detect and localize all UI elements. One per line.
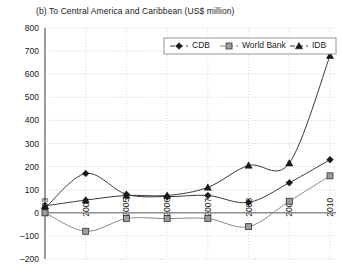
x-tick-label: 2006 (162, 198, 172, 217)
data-point-marker (205, 216, 211, 222)
data-point-marker (204, 184, 211, 190)
data-point-marker (286, 198, 292, 204)
chart-container: (b) To Central America and Caribbean (US… (0, 0, 343, 277)
y-tick-label: –100 (20, 231, 39, 241)
chart-svg: 8007006005004003002001000–100–200 200320… (0, 0, 343, 277)
data-point-marker (246, 224, 252, 230)
data-point-marker (327, 173, 333, 179)
data-point-marker (164, 216, 170, 222)
data-point-marker (286, 160, 293, 166)
y-tick-label: 400 (25, 115, 39, 125)
y-tick-label: 600 (25, 69, 39, 79)
gridlines-group (45, 28, 336, 259)
data-point-marker (82, 170, 89, 177)
data-point-marker (42, 210, 48, 216)
legend-label-world-bank[interactable]: World Bank (242, 40, 287, 50)
y-tick-label: 500 (25, 92, 39, 102)
y-tick-label: 300 (25, 139, 39, 149)
data-point-marker (123, 216, 129, 222)
data-point-marker (205, 192, 212, 199)
data-point-marker (286, 179, 293, 186)
data-point-marker (83, 228, 89, 234)
legend-label-idb[interactable]: IDB (312, 40, 327, 50)
y-tick-label: 800 (25, 23, 39, 33)
y-tick-label: 200 (25, 162, 39, 172)
x-tick-label: 2010 (325, 198, 335, 217)
chart-legend[interactable]: CDBWorld BankIDB (164, 38, 336, 54)
y-tick-labels-group: 8007006005004003002001000–100–200 (20, 23, 39, 264)
y-tick-label: 100 (25, 185, 39, 195)
y-tick-label: 0 (34, 208, 39, 218)
data-point-marker (327, 156, 334, 163)
data-point-marker (226, 43, 232, 49)
x-tick-label: 2007 (203, 198, 213, 217)
y-tick-label: 700 (25, 46, 39, 56)
y-tick-label: –200 (20, 254, 39, 264)
legend-label-cdb[interactable]: CDB (192, 40, 210, 50)
x-tick-label: 2005 (121, 198, 131, 217)
